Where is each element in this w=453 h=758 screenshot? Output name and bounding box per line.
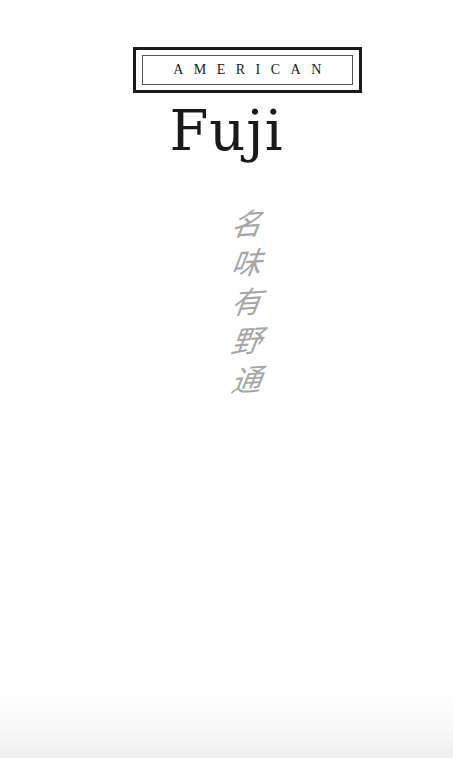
inscription-character: 名	[229, 204, 265, 245]
inscription-character: 有	[229, 282, 265, 323]
inscription-character: 通	[229, 360, 265, 401]
series-label-frame: AMERICAN	[133, 47, 362, 93]
inscription-character: 味	[229, 243, 265, 284]
book-title: Fuji	[0, 96, 453, 166]
series-label: AMERICAN	[163, 62, 332, 78]
series-label-inner-frame: AMERICAN	[142, 55, 353, 85]
calligraphy-inscription: 名 味 有 野 通	[222, 205, 272, 400]
inscription-character: 野	[229, 321, 265, 362]
title-page: AMERICAN Fuji 名 味 有 野 通	[0, 0, 453, 758]
